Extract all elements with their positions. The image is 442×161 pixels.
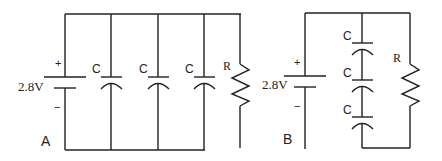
a-battery: + 2.8V −: [18, 14, 86, 150]
a-capacitor-3: C: [185, 14, 215, 150]
b-battery-voltage: 2.8V: [262, 77, 288, 92]
a-capacitor-2-label: C: [139, 62, 148, 76]
a-capacitor-2: C: [139, 14, 169, 150]
b-resistor: R: [393, 13, 419, 148]
b-capacitor-1: C: [343, 29, 373, 55]
b-circuit-label: B: [283, 131, 292, 147]
b-capacitor-3-label: C: [343, 103, 352, 117]
b-resistor-label: R: [393, 51, 401, 65]
a-capacitor-3-label: C: [185, 62, 194, 76]
b-battery-plus: +: [294, 56, 300, 68]
a-resistor-label: R: [223, 59, 231, 73]
circuit-b: + 2.8V − C C C: [262, 13, 419, 149]
a-battery-voltage: 2.8V: [18, 79, 44, 94]
circuit-diagrams: + 2.8V − C C C: [0, 0, 442, 161]
b-battery-minus: −: [294, 100, 300, 112]
b-capacitor-chain: C C C: [343, 13, 373, 148]
a-battery-plus: +: [55, 57, 61, 69]
a-circuit-label: A: [41, 133, 51, 149]
a-battery-minus: −: [54, 101, 60, 113]
a-capacitor-1-label: C: [92, 62, 101, 76]
circuit-a: + 2.8V − C C C: [18, 14, 249, 150]
b-capacitor-3: C: [343, 103, 373, 129]
b-battery: + 2.8V −: [262, 13, 326, 149]
b-capacitor-1-label: C: [343, 29, 352, 43]
b-capacitor-2: C: [343, 66, 373, 92]
a-capacitor-1: C: [92, 14, 122, 150]
b-capacitor-2-label: C: [343, 66, 352, 80]
a-resistor: R: [223, 14, 249, 148]
